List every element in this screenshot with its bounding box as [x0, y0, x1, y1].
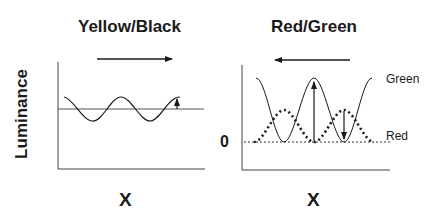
y-axis-label: Luminance: [12, 64, 32, 164]
left-panel-title: Yellow/Black: [78, 17, 181, 37]
diagram-canvas: [0, 0, 432, 217]
right-x-label: X: [307, 189, 320, 211]
green-legend-label: Green: [386, 72, 419, 86]
zero-label: 0: [220, 133, 229, 151]
right-panel-title: Red/Green: [271, 17, 357, 37]
left-panel: [58, 59, 205, 169]
left-x-label: X: [119, 189, 132, 211]
red-legend-label: Red: [386, 129, 408, 143]
right-panel: [242, 60, 390, 170]
